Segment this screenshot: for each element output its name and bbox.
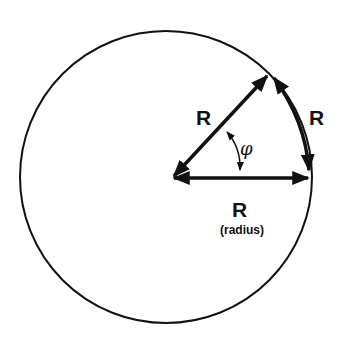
radius-upper-arrow	[174, 76, 267, 176]
label-radius-upper: R	[196, 106, 211, 129]
label-radius-caption: (radius)	[220, 223, 264, 237]
arc-arrow	[274, 78, 309, 170]
label-arc: R	[309, 106, 324, 129]
radian-diagram: R R φ R (radius)	[0, 0, 346, 346]
angle-arrow	[227, 132, 240, 170]
label-angle: φ	[240, 138, 253, 159]
label-radius-lower: R	[232, 198, 247, 221]
